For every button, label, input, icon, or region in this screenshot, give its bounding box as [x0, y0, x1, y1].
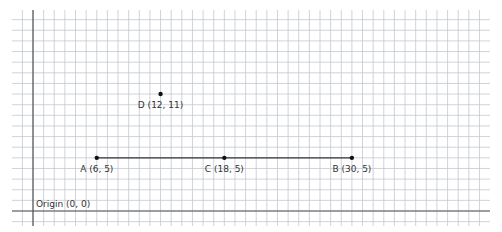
point-marker-icon — [222, 156, 226, 160]
point-marker-icon — [95, 156, 99, 160]
point-label: B (30, 5) — [332, 164, 371, 174]
point-marker-icon — [350, 156, 354, 160]
point-marker-icon — [158, 92, 162, 96]
point-label: D (12, 11) — [138, 100, 183, 110]
point-D: D (12, 11) — [138, 92, 183, 110]
coordinate-grid: A (6, 5)C (18, 5)B (30, 5)D (12, 11) Ori… — [0, 0, 502, 232]
point-label: C (18, 5) — [205, 164, 244, 174]
axes — [12, 10, 490, 226]
points: A (6, 5)C (18, 5)B (30, 5)D (12, 11) — [80, 92, 371, 174]
grid-lines — [12, 10, 490, 226]
origin-label: Origin (0, 0) — [36, 199, 90, 209]
point-label: A (6, 5) — [80, 164, 113, 174]
